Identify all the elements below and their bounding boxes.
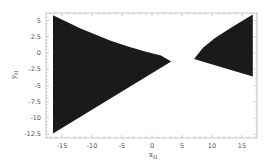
shaded-regions <box>53 15 253 134</box>
region-right <box>194 15 253 77</box>
y-tick-label: -12.5 <box>24 130 41 138</box>
x-tick-label: 0 <box>150 142 154 150</box>
region-plot: -15-10-5051015 52.50-2.5-5-7.5-10-12.5 x… <box>0 0 270 164</box>
y-tick-label: -5 <box>35 82 41 90</box>
x-tick-label: -10 <box>87 142 98 150</box>
y-tick-label: 0 <box>37 49 41 57</box>
x-tick-label: -15 <box>57 142 68 150</box>
y-tick-label: -7.5 <box>28 98 41 106</box>
x-tick-label: 10 <box>208 142 216 150</box>
region-left <box>53 15 171 133</box>
y-axis-label: yH <box>10 70 19 80</box>
x-axis-label: xH <box>149 151 158 160</box>
y-tick-label: 2.5 <box>31 33 41 41</box>
y-tick-label: -10 <box>30 114 41 122</box>
x-tick-labels: -15-10-5051015 <box>57 142 246 150</box>
x-tick-label: 5 <box>180 142 184 150</box>
x-tick-label: 15 <box>238 142 246 150</box>
y-tick-label: -2.5 <box>28 65 41 73</box>
y-tick-label: 5 <box>37 17 41 25</box>
x-tick-label: -5 <box>119 142 125 150</box>
y-tick-labels: 52.50-2.5-5-7.5-10-12.5 <box>24 17 41 139</box>
